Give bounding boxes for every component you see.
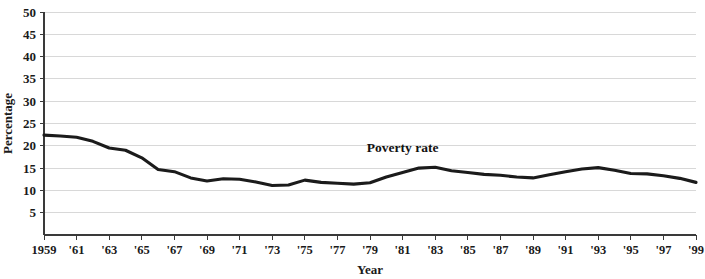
x-tick-label: '99 [688, 243, 704, 257]
y-tick-label: 10 [23, 183, 36, 198]
x-tick-label: '93 [590, 243, 606, 257]
x-tick-label: '77 [329, 243, 345, 257]
series-annotations-group: Poverty rate [367, 140, 439, 155]
y-tick-label: 20 [23, 138, 36, 153]
poverty-rate-line-chart: 5101520253035404550 1959'61'63'65'67'69'… [0, 0, 705, 279]
x-tick-label: '81 [395, 243, 411, 257]
x-tick-label: '97 [655, 243, 671, 257]
y-tick-label: 25 [23, 116, 37, 131]
chart-canvas: 5101520253035404550 1959'61'63'65'67'69'… [0, 0, 705, 279]
y-axis-title: Percentage [0, 93, 15, 154]
x-tick-label: '75 [297, 243, 313, 257]
x-tick-label: '61 [69, 243, 85, 257]
x-tick-label: 1959 [32, 243, 57, 257]
x-tick-label: '83 [427, 243, 443, 257]
x-tick-label: '67 [166, 243, 182, 257]
y-tick-label: 35 [23, 71, 37, 86]
x-tick-label: '89 [525, 243, 541, 257]
x-tick-label: '87 [492, 243, 508, 257]
series-label-annotation: Poverty rate [367, 140, 439, 155]
x-tick-label: '69 [199, 243, 215, 257]
x-tick-label: '65 [134, 243, 150, 257]
x-axis-tick-labels: 1959'61'63'65'67'69'71'73'75'77'79'81'83… [32, 243, 704, 257]
x-tick-label: '71 [232, 243, 248, 257]
x-tick-label: '95 [623, 243, 639, 257]
y-tick-label: 5 [30, 205, 37, 220]
x-tick-label: '73 [264, 243, 280, 257]
y-axis-tick-labels: 5101520253035404550 [23, 5, 37, 221]
y-tick-label: 50 [23, 5, 36, 20]
x-tick-label: '63 [101, 243, 117, 257]
y-tick-label: 45 [23, 27, 37, 42]
y-tick-label: 30 [23, 94, 36, 109]
x-tick-label: '85 [460, 243, 476, 257]
y-tick-label: 15 [23, 161, 37, 176]
x-tick-label: '79 [362, 243, 378, 257]
tick-marks-group [40, 12, 696, 240]
x-tick-label: '91 [558, 243, 574, 257]
y-tick-label: 40 [23, 49, 36, 64]
x-axis-title: Year [357, 262, 383, 277]
